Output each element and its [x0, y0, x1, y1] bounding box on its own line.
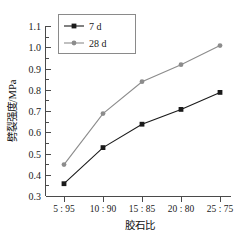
x-tick-label-0: 5 : 95 [53, 204, 75, 214]
y-tick-label-1: 0.4 [29, 170, 42, 181]
y-tick-label-8: 1.1 [29, 21, 42, 32]
series-28d-point [179, 62, 184, 67]
series-28d-point [62, 162, 67, 167]
y-tick-label-5: 0.8 [29, 85, 42, 96]
y-tick-label-3: 0.6 [29, 127, 42, 138]
x-tick-label-3: 20 : 80 [168, 204, 195, 214]
y-tick-label-0: 0.3 [29, 191, 42, 202]
y-tick-label-2: 0.5 [29, 149, 42, 160]
legend-label-28d: 28 d [89, 38, 107, 49]
y-tick-label-4: 0.7 [29, 106, 42, 117]
series-28d-point [218, 43, 223, 48]
series-7d-point [140, 122, 145, 127]
series-7d-point [101, 145, 106, 150]
series-7d-point [218, 90, 223, 95]
x-tick-label-4: 25 : 75 [207, 204, 234, 214]
chart-figure: 0.3 0.4 0.5 0.6 0.7 0.8 0.9 1.0 1.1 5 : … [0, 0, 239, 243]
chart-legend: 7 d 28 d [59, 15, 136, 54]
y-tick-label-7: 1.0 [29, 42, 42, 53]
legend-marker-28d [72, 41, 77, 46]
x-tick-label-2: 15 : 85 [129, 204, 156, 214]
x-tick-label-1: 10 : 90 [90, 204, 117, 214]
legend-marker-7d [72, 24, 77, 29]
y-tick-label-6: 0.9 [29, 64, 42, 75]
split-tensile-strength-line-chart: 0.3 0.4 0.5 0.6 0.7 0.8 0.9 1.0 1.1 5 : … [0, 0, 239, 243]
x-axis-title: 胶石比 [125, 219, 155, 231]
y-axis-title: 劈裂强度/MPa [6, 79, 18, 142]
series-28d-point [101, 111, 106, 116]
series-7d-point [62, 181, 67, 186]
series-7d-point [179, 107, 184, 112]
series-28d-point [140, 79, 145, 84]
legend-label-7d: 7 d [89, 21, 102, 32]
